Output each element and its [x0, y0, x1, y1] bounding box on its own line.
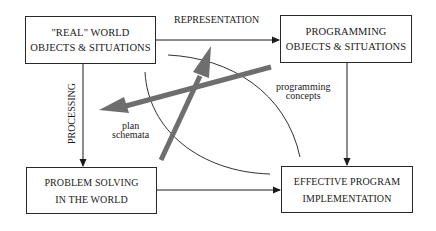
problem-solving-box: PROBLEM SOLVING IN THE WORLD: [26, 167, 157, 214]
implementation-line2: IMPLEMENTATION: [303, 190, 392, 207]
programming-line1: PROGRAMMING: [305, 24, 386, 39]
implementation-box: EFFECTIVE PROGRAM IMPLEMENTATION: [281, 166, 413, 213]
programming-line2: OBJECTS & SITUATIONS: [286, 39, 406, 54]
programming-concepts-label: programming concepts: [276, 82, 330, 100]
plan-schemata-line2: schemata: [112, 130, 149, 139]
processing-label: PROCESSING: [66, 79, 77, 149]
real-world-line1: "REAL" WORLD: [51, 25, 129, 40]
programming-box: PROGRAMMING OBJECTS & SITUATIONS: [280, 15, 412, 63]
implementation-line1: EFFECTIVE PROGRAM: [294, 173, 400, 190]
real-world-line2: OBJECTS & SITUATIONS: [30, 40, 150, 55]
representation-label: REPRESENTATION: [174, 14, 259, 25]
plan-schemata-label: plan schemata: [112, 121, 149, 139]
thick-arrow-up: [161, 46, 211, 160]
programming-concepts-line2: concepts: [276, 91, 330, 100]
problem-solving-line1: PROBLEM SOLVING: [44, 174, 138, 191]
problem-solving-line2: IN THE WORLD: [55, 191, 128, 208]
real-world-box: "REAL" WORLD OBJECTS & SITUATIONS: [25, 16, 156, 64]
